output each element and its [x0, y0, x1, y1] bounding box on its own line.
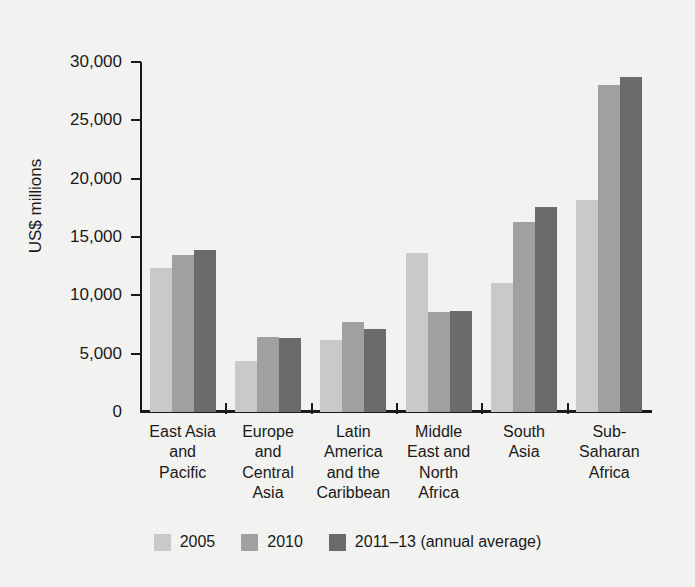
x-category-label-line: Pacific [140, 463, 225, 483]
x-category-label-line: Africa [396, 483, 481, 503]
y-tick-label: 30,000 [36, 53, 122, 70]
bar-group [225, 62, 310, 412]
x-category-label: EuropeandCentralAsia [225, 422, 310, 504]
legend-swatch-icon [154, 534, 171, 551]
y-axis-title: US$ millions [26, 126, 46, 286]
x-category-label-line: Asia [481, 442, 566, 462]
chart-legend: 200520102011–13 (annual average) [0, 533, 695, 551]
y-tick-label: 0 [36, 403, 122, 420]
x-category-label-line: and the [311, 463, 396, 483]
bar [620, 77, 642, 412]
y-tick-label: 5,000 [36, 345, 122, 362]
bar-group [311, 62, 396, 412]
category-divider-tick [225, 403, 227, 414]
legend-swatch-icon [241, 534, 258, 551]
x-category-label-line: Latin [311, 422, 396, 442]
bar [364, 329, 386, 412]
bar [235, 361, 257, 412]
x-category-label-line: Saharan [567, 442, 652, 462]
x-category-label-line: Central [225, 463, 310, 483]
x-category-label-line: Asia [225, 483, 310, 503]
bar [194, 250, 216, 412]
y-tick-label: 20,000 [36, 170, 122, 187]
legend-label: 2005 [180, 533, 216, 551]
x-category-label-line: Africa [567, 463, 652, 483]
bar [406, 253, 428, 412]
x-category-label-line: East and [396, 442, 481, 462]
bar [450, 311, 472, 413]
bar [150, 268, 172, 412]
category-divider-tick [396, 403, 398, 414]
y-tick-label: 15,000 [36, 228, 122, 245]
legend-item[interactable]: 2011–13 (annual average) [329, 533, 542, 551]
bar [576, 200, 598, 412]
bar-group [481, 62, 566, 412]
bar-group [396, 62, 481, 412]
x-category-label-line: America [311, 442, 396, 462]
legend-label: 2010 [267, 533, 303, 551]
x-category-label-line: Europe [225, 422, 310, 442]
x-category-label: MiddleEast andNorthAfrica [396, 422, 481, 504]
x-category-label-line: North [396, 463, 481, 483]
bar [491, 283, 513, 413]
chart-figure: 30,00025,00020,00015,00010,0005,0000 US$… [0, 0, 695, 587]
x-category-label-line: Middle [396, 422, 481, 442]
x-category-label: LatinAmericaand theCaribbean [311, 422, 396, 504]
x-category-label: SouthAsia [481, 422, 566, 463]
y-tick-label: 25,000 [36, 111, 122, 128]
bar [513, 222, 535, 412]
x-category-label-line: Sub- [567, 422, 652, 442]
x-category-label: East AsiaandPacific [140, 422, 225, 483]
bar [320, 340, 342, 412]
bar [279, 338, 301, 412]
bar [535, 207, 557, 412]
x-category-label-line: and [225, 442, 310, 462]
bar [342, 322, 364, 412]
bar [172, 255, 194, 413]
legend-swatch-icon [329, 534, 346, 551]
bar [598, 85, 620, 412]
legend-label: 2011–13 (annual average) [355, 533, 542, 551]
bar [257, 337, 279, 412]
category-divider-tick [311, 403, 313, 414]
bar [428, 312, 450, 412]
category-divider-tick [567, 403, 569, 414]
bar-group [567, 62, 652, 412]
x-category-label-line: East Asia [140, 422, 225, 442]
x-category-label-line: and [140, 442, 225, 462]
x-category-label: Sub-SaharanAfrica [567, 422, 652, 483]
bar-group [140, 62, 225, 412]
x-category-label-line: South [481, 422, 566, 442]
legend-item[interactable]: 2010 [241, 533, 303, 551]
x-category-label-line: Caribbean [311, 483, 396, 503]
legend-item[interactable]: 2005 [154, 533, 216, 551]
category-divider-tick [481, 403, 483, 414]
y-tick-label: 10,000 [36, 286, 122, 303]
